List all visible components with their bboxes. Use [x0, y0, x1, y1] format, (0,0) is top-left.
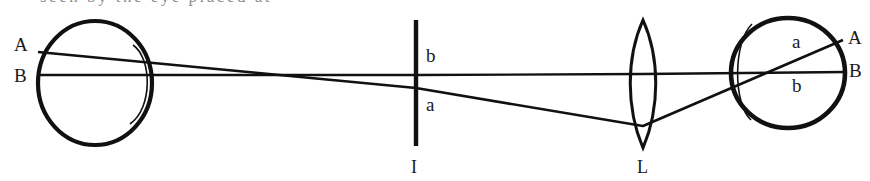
label-right-eye-B: B [849, 61, 862, 80]
ray-upper-A [38, 40, 843, 126]
label-left-eye-B: B [14, 66, 27, 85]
lens-biconvex [630, 20, 656, 148]
lens-group [630, 20, 656, 148]
left-eye-group [38, 21, 152, 145]
label-right-eye-b: b [792, 76, 802, 95]
ray-bundle [38, 40, 846, 126]
label-object-a: a [426, 95, 434, 114]
ray-diagram-svg [0, 0, 870, 181]
left-eye-globe [38, 21, 152, 145]
ray-axis-B [38, 72, 846, 75]
label-lens-name-L: L [637, 158, 648, 176]
label-right-eye-a: a [792, 32, 800, 51]
label-object-name-I: I [411, 158, 417, 176]
label-object-b: b [426, 46, 436, 65]
figure-canvas: seen by the eye placed at A B [0, 0, 870, 181]
label-right-eye-A: A [848, 28, 862, 47]
label-left-eye-A: A [14, 35, 28, 54]
